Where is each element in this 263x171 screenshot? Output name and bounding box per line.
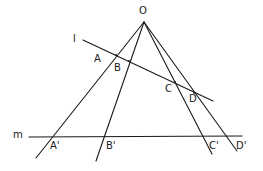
point-c-prime-label: C' <box>209 140 219 151</box>
center-point-label: O <box>139 5 147 16</box>
ray-oc <box>144 22 212 154</box>
line-l-label: l <box>73 33 76 44</box>
ray-od <box>144 22 237 151</box>
point-c <box>174 81 176 83</box>
point-a <box>115 54 117 56</box>
ray-oa <box>36 22 144 158</box>
point-b-prime-label: B' <box>106 140 116 151</box>
line-m <box>29 136 242 137</box>
point-a-label: A <box>94 53 101 64</box>
line-m-label: m <box>13 129 23 140</box>
perspectivity-diagram: lmOABCDA'B'C'D' <box>0 0 263 171</box>
point-b <box>128 60 130 62</box>
point-b-label: B <box>114 62 121 73</box>
point-d-label: D <box>189 93 197 104</box>
point-c-label: C <box>165 83 172 94</box>
point-d-prime-label: D' <box>236 140 246 151</box>
line-l <box>83 40 213 101</box>
point-a-prime-label: A' <box>50 140 60 151</box>
ray-ob <box>96 22 144 161</box>
